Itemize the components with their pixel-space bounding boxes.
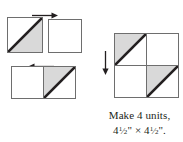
hst-b-fill	[44, 67, 75, 98]
join-arrow-right-icon	[32, 6, 58, 15]
caption-times-symbol: ×	[132, 124, 144, 136]
caption-height-inch-mark: ".	[159, 124, 166, 136]
plain-square-b-fill	[12, 67, 43, 98]
half-square-triangle-a	[7, 17, 43, 53]
unit-top-left	[114, 33, 147, 66]
join-arrow-left-icon	[28, 57, 54, 66]
assemble-arrow-down-icon	[101, 51, 110, 75]
unit-bottom-left	[114, 65, 147, 98]
unit-bottom-left-fill	[115, 66, 146, 97]
unit-caption: Make 4 units, 41⁄2" × 41⁄2".	[96, 108, 183, 139]
half-square-triangle-b	[43, 66, 76, 99]
unit-top-left-fill	[115, 34, 146, 65]
caption-line-2: 41⁄2" × 41⁄2".	[96, 122, 183, 139]
diagram-canvas: Make 4 units, 41⁄2" × 41⁄2".	[0, 0, 183, 142]
plain-square-b	[11, 66, 44, 99]
plain-square-a	[48, 19, 82, 53]
unit-top-right	[146, 33, 179, 66]
unit-bottom-right	[146, 65, 179, 98]
plain-square-a-fill	[49, 20, 81, 52]
caption-line-1: Make 4 units,	[109, 109, 171, 121]
hst-a-fill	[8, 18, 42, 52]
caption-height-fraction: 1⁄2	[150, 124, 159, 136]
unit-bottom-right-fill	[147, 66, 178, 97]
unit-top-right-fill	[147, 34, 178, 65]
